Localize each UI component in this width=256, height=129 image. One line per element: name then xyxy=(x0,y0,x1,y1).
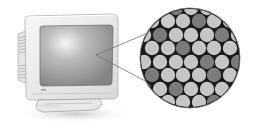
magnified-phosphor-dots xyxy=(137,1,245,109)
monitor-screen xyxy=(40,25,113,86)
monitor-logo xyxy=(41,89,46,91)
illustration xyxy=(0,0,256,129)
monitor-magnifier-illustration xyxy=(0,0,256,129)
monitor-stand xyxy=(36,99,102,112)
